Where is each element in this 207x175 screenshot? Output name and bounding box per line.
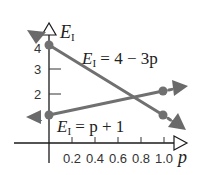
arrow-left-icon (26, 110, 41, 124)
equation-4-minus-3p: EI = 4 − 3p (81, 49, 158, 69)
arrow-right-icon (172, 80, 188, 96)
x-tick-label-0.4: 0.4 (86, 151, 104, 166)
x-tick-label-0.2: 0.2 (63, 151, 81, 166)
y-tick-label-4: 4 (34, 41, 41, 56)
y-axis-label: EI (59, 22, 75, 43)
x-tick-label-1.0: 1.0 (155, 151, 173, 166)
y-tick-label-2: 2 (34, 87, 41, 102)
x-ticks: 0.2 0.4 0.6 0.8 1.0 (63, 137, 173, 166)
equation-p-plus-1: EI = p + 1 (56, 117, 124, 137)
point-0-4 (45, 41, 54, 50)
x-tick-label-0.6: 0.6 (109, 151, 127, 166)
x-tick-label-0.8: 0.8 (132, 151, 150, 166)
point-0-1 (45, 111, 54, 120)
x-axis-label: p (176, 147, 187, 167)
payoff-chart: 4 3 2 1 0.2 0.4 0.6 0.8 1.0 EI p (0, 0, 207, 175)
y-tick-label-3: 3 (34, 62, 41, 77)
point-1-1 (159, 111, 168, 120)
arrow-down-right-icon (168, 113, 186, 130)
point-1-2 (159, 87, 168, 96)
arrow-up-left-icon (27, 30, 46, 44)
